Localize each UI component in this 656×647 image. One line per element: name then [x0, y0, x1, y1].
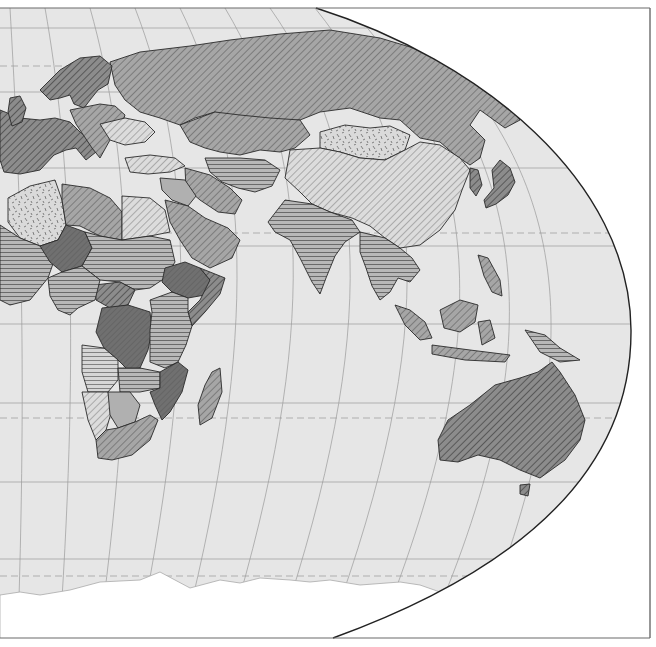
map-container — [0, 0, 656, 647]
region-zambia[interactable] — [118, 368, 160, 392]
region-tasmania[interactable] — [520, 484, 530, 496]
world-map[interactable] — [0, 0, 656, 647]
